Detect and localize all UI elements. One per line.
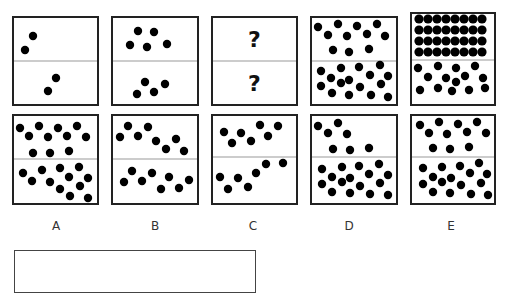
dot — [346, 189, 354, 197]
dot — [416, 86, 424, 94]
dot — [423, 14, 432, 23]
dot — [52, 74, 60, 82]
question-box-q4 — [311, 17, 397, 105]
dot — [477, 47, 486, 56]
dot — [346, 174, 354, 182]
dot — [414, 14, 423, 23]
dot — [477, 25, 486, 34]
dot — [317, 82, 325, 90]
dot — [432, 14, 441, 23]
dot — [63, 132, 71, 140]
dot — [35, 122, 43, 130]
dot — [38, 166, 46, 174]
option-box-D[interactable] — [311, 115, 397, 204]
dot — [441, 25, 450, 34]
dot — [482, 129, 490, 137]
dot — [355, 162, 363, 170]
option-box-B[interactable] — [112, 115, 198, 204]
dot — [366, 71, 374, 79]
dot — [66, 192, 74, 200]
dot — [133, 90, 141, 98]
dot — [185, 176, 193, 184]
option-label-D[interactable]: D — [344, 219, 353, 233]
dot — [441, 36, 450, 45]
dot — [314, 122, 322, 130]
dot — [150, 28, 158, 36]
dot — [450, 47, 459, 56]
dot — [366, 190, 374, 198]
question-box-q3: ?? — [212, 17, 297, 105]
dot — [16, 124, 24, 132]
dot — [452, 78, 460, 86]
option-label-B[interactable]: B — [151, 219, 159, 233]
dot — [441, 14, 450, 23]
dot — [172, 135, 180, 143]
option-label-A[interactable]: A — [52, 219, 60, 233]
option-box-A[interactable] — [13, 115, 98, 204]
dot — [345, 76, 353, 84]
dot — [456, 162, 464, 170]
dot — [429, 144, 437, 152]
dot — [363, 30, 371, 38]
dot — [459, 47, 468, 56]
dot — [84, 174, 92, 182]
dot — [56, 185, 64, 193]
dot — [450, 36, 459, 45]
dot — [432, 25, 441, 34]
dot — [56, 164, 64, 172]
dot — [446, 145, 454, 153]
question-mark: ? — [248, 71, 261, 96]
dot — [75, 163, 83, 171]
dot — [329, 145, 337, 153]
dot — [150, 88, 158, 96]
question-box-q1 — [13, 17, 98, 105]
dot — [224, 185, 232, 193]
dot — [318, 180, 326, 188]
dot — [337, 64, 345, 72]
dot — [126, 41, 134, 49]
dot — [237, 129, 245, 137]
dot — [365, 144, 373, 152]
dot — [65, 147, 73, 155]
option-box-E[interactable] — [411, 115, 495, 204]
dot — [228, 139, 236, 147]
dot — [452, 64, 460, 72]
dot — [450, 14, 459, 23]
dot — [324, 129, 332, 137]
dot — [148, 169, 156, 177]
dot — [165, 173, 173, 181]
dot — [367, 91, 375, 99]
dot — [29, 32, 37, 40]
dot — [471, 62, 479, 70]
dot — [450, 25, 459, 34]
dot — [324, 31, 332, 39]
dot — [334, 119, 342, 127]
dot — [465, 143, 473, 151]
dot — [441, 47, 450, 56]
dot — [44, 87, 52, 95]
dot — [483, 170, 491, 178]
answer-box[interactable] — [14, 250, 256, 293]
option-label-C[interactable]: C — [249, 219, 257, 233]
dot — [459, 25, 468, 34]
dot — [443, 130, 451, 138]
dot — [384, 191, 392, 199]
dot — [365, 170, 373, 178]
dot — [384, 171, 392, 179]
dot — [356, 83, 364, 91]
dot — [134, 132, 142, 140]
dot — [353, 22, 361, 30]
dot — [138, 177, 146, 185]
dot — [463, 128, 471, 136]
dot — [416, 121, 424, 129]
dot — [73, 122, 81, 130]
dot — [345, 91, 353, 99]
dot — [44, 133, 52, 141]
dot — [346, 146, 354, 154]
dot — [247, 137, 255, 145]
option-label-E[interactable]: E — [447, 219, 455, 233]
dot — [467, 190, 475, 198]
option-box-C[interactable] — [212, 115, 297, 204]
dot — [180, 147, 188, 155]
dot — [244, 183, 252, 191]
